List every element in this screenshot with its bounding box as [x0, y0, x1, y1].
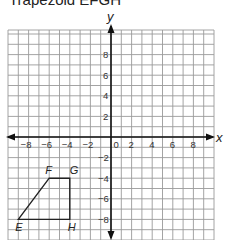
vertex-label-h: H	[68, 221, 76, 233]
x-tick-label: −2	[82, 139, 93, 150]
coordinate-plane: −8−6−4−2024688642−2−4−6−8 EFGH x y	[0, 0, 225, 240]
y-tick-label: −8	[98, 214, 109, 225]
y-tick-label: 2	[103, 111, 108, 122]
axes	[6, 24, 215, 240]
x-tick-label: 0	[114, 139, 119, 150]
x-axis-arrow-left-icon	[6, 134, 15, 141]
y-axis-label: y	[106, 9, 115, 24]
x-tick-label: 6	[170, 139, 175, 150]
vertex-label-e: E	[15, 221, 23, 233]
x-tick-label: 2	[129, 139, 134, 150]
y-axis-arrow-down-icon	[108, 231, 115, 240]
y-axis-arrow-up-icon	[108, 24, 115, 33]
vertex-label-g: G	[70, 164, 79, 176]
y-tick-label: −6	[98, 193, 109, 204]
x-tick-label: −4	[62, 139, 73, 150]
x-tick-label: 8	[190, 139, 195, 150]
y-tick-label: 6	[103, 70, 108, 81]
y-tick-label: 4	[103, 90, 108, 101]
x-tick-label: 4	[149, 139, 154, 150]
x-axis-label: x	[215, 130, 223, 145]
y-tick-label: 8	[103, 49, 108, 60]
vertex-label-f: F	[45, 164, 53, 176]
y-tick-label: −2	[98, 152, 109, 163]
y-tick-label: −4	[98, 173, 109, 184]
x-tick-label: −8	[21, 139, 32, 150]
x-tick-label: −6	[41, 139, 52, 150]
